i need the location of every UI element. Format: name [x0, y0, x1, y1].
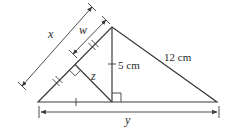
right-angle-marker-altitude	[112, 93, 121, 102]
double-tick-lower	[53, 76, 63, 86]
diagram-canvas	[0, 0, 227, 129]
label-hypotenuse: 12 cm	[164, 52, 191, 63]
label-x: x	[48, 28, 53, 40]
dimension-w	[69, 16, 110, 58]
triangle-diagram: x w z y 5 cm 12 cm	[0, 0, 227, 129]
label-z: z	[91, 70, 96, 82]
right-angle-marker-perp	[69, 70, 80, 76]
label-altitude: 5 cm	[118, 60, 140, 71]
label-y: y	[125, 114, 130, 126]
label-w: w	[79, 24, 87, 36]
